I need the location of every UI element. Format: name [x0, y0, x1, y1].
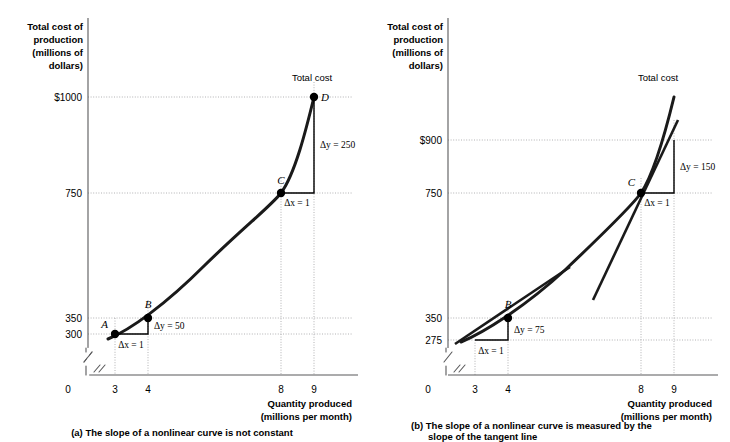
grid-horizontal-b — [448, 140, 712, 340]
axis-break-b — [444, 348, 465, 375]
x-tick-label-8: 8 — [278, 384, 284, 395]
chart-panel-a: Total cost of production (millions of do… — [0, 0, 365, 442]
x-tick-label-4-b: 4 — [505, 384, 511, 395]
point-d-marker[interactable] — [310, 93, 318, 101]
y-tick-labels-a: $1000 750 350 300 — [54, 92, 82, 340]
axis-break-a — [84, 348, 105, 376]
point-b-label: B — [145, 298, 152, 310]
y-axis-title-b-line-3: (millions of — [392, 47, 444, 58]
y-axis-title-b-line-4: dollars) — [409, 60, 443, 71]
total-cost-curve-a — [108, 97, 314, 339]
grid-vertical-a — [115, 82, 314, 375]
grid-horizontal-a — [88, 97, 352, 334]
point-b-marker[interactable] — [144, 314, 152, 322]
slope-triangle-b-path — [475, 318, 508, 340]
x-axis-title-a: Quantity produced (millions per month) — [261, 398, 353, 422]
y-axis-title-b: Total cost of production (millions of do… — [387, 21, 444, 71]
delta-x-label-cd: Δx = 1 — [284, 198, 310, 208]
tangent-line-at-b — [455, 267, 570, 344]
delta-y-label-ab: Δy = 50 — [154, 321, 185, 331]
x-tick-label-9-b: 9 — [671, 384, 677, 395]
delta-y-label-cd: Δy = 250 — [320, 140, 355, 150]
y-tick-label-750: 750 — [65, 188, 82, 199]
tangent-line-at-c — [593, 120, 678, 300]
x-tick-labels-b: 0 3 4 8 9 — [425, 384, 677, 395]
y-axis-title-line-2: production — [33, 34, 83, 45]
point-b-label-b: B — [505, 298, 512, 310]
y-tick-label-350: 350 — [65, 313, 82, 324]
data-points-b: B C — [504, 176, 645, 322]
x-axis-title-b: Quantity produced (millions per month) — [621, 398, 713, 422]
y-tick-label-300: 300 — [65, 329, 82, 340]
chart-panel-b: Total cost of production (millions of do… — [365, 0, 730, 442]
x-tick-label-9: 9 — [311, 384, 317, 395]
y-tick-label-275: 275 — [425, 335, 442, 346]
y-axis-title-a: Total cost of production (millions of do… — [27, 21, 84, 71]
point-d-label: D — [320, 91, 329, 103]
point-a-marker[interactable] — [111, 330, 119, 338]
point-c-label-b: C — [628, 176, 636, 188]
y-tick-label-1000: $1000 — [54, 92, 82, 103]
x-origin-label-b: 0 — [425, 384, 431, 395]
y-axis-title-line-3: (millions of — [32, 47, 84, 58]
y-tick-label-750-b: 750 — [425, 188, 442, 199]
x-axis-title-line-1: Quantity produced — [268, 398, 353, 409]
panel-caption-a: (a) The slope of a nonlinear curve is no… — [71, 427, 294, 438]
series-label-total-cost-b: Total cost — [638, 72, 678, 83]
x-axis-title-line-2: (millions per month) — [261, 411, 352, 422]
delta-y-label-c: Δy = 150 — [680, 162, 715, 172]
panel-caption-b-line2: slope of the tangent line — [428, 431, 537, 442]
point-c-marker[interactable] — [277, 189, 285, 197]
point-a-label: A — [100, 318, 108, 330]
x-tick-label-4: 4 — [145, 384, 151, 395]
x-tick-labels-a: 0 3 4 8 9 — [65, 384, 317, 395]
x-axis-break-slashes — [94, 365, 105, 372]
x-axis-title-b-line-1: Quantity produced — [628, 398, 713, 409]
y-axis-title-line-4: dollars) — [49, 60, 83, 71]
data-points-a: A B C D — [100, 91, 329, 338]
y-axis-title-b-line-2: production — [393, 34, 443, 45]
point-b-marker-b[interactable] — [504, 314, 512, 322]
x-axis-break-slashes-b — [454, 365, 465, 372]
x-tick-label-3: 3 — [112, 384, 118, 395]
delta-x-label-b: Δx = 1 — [478, 346, 504, 356]
y-axis-title-line-1: Total cost of — [27, 21, 84, 32]
panel-caption-b: (b) The slope of a nonlinear curve is me… — [411, 420, 652, 431]
y-axis-break-slash-b — [444, 352, 452, 362]
delta-x-label-ab: Δx = 1 — [118, 340, 144, 350]
y-axis-title-b-line-1: Total cost of — [387, 21, 444, 32]
y-tick-label-900: $900 — [420, 135, 443, 146]
grid-vertical-b — [475, 120, 674, 375]
y-tick-labels-b: $900 750 350 275 — [420, 135, 443, 346]
slope-triangle-cd: Δx = 1 Δy = 250 — [281, 97, 355, 208]
figure-container: Total cost of production (millions of do… — [0, 0, 730, 442]
x-tick-label-8-b: 8 — [638, 384, 644, 395]
series-label-total-cost-a: Total cost — [292, 72, 332, 83]
total-cost-curve-b — [461, 97, 674, 342]
x-tick-label-3-b: 3 — [472, 384, 478, 395]
delta-x-label-c: Δx = 1 — [644, 198, 670, 208]
y-tick-label-350-b: 350 — [425, 313, 442, 324]
x-origin-label: 0 — [65, 384, 71, 395]
point-c-marker-b[interactable] — [637, 189, 645, 197]
point-c-label: C — [277, 174, 285, 186]
delta-y-label-b: Δy = 75 — [514, 325, 545, 335]
